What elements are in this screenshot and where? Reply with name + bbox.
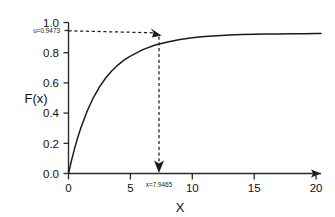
chart-screenshot: 1.0 0.8 0.6 0.4 0.2 0.0 0 5 10 15 20 F(x… <box>0 0 335 217</box>
y-tick-label-0-2: 0.2 <box>43 138 59 150</box>
x-axis-title: X <box>176 200 185 215</box>
y-tick-label-0-4: 0.4 <box>43 107 60 119</box>
x-tick-label-10: 10 <box>186 182 199 194</box>
y-axis-title: F(x) <box>24 91 47 106</box>
y-tick-label-0-0: 0.0 <box>43 168 59 180</box>
exponential-cdf-chart: 1.0 0.8 0.6 0.4 0.2 0.0 0 5 10 15 20 F(x… <box>0 0 335 217</box>
y-tick-label-0-6: 0.6 <box>43 77 59 89</box>
x-tick-label-0: 0 <box>65 182 71 194</box>
x-solution-annotation-label: x=7.9465 <box>146 181 173 188</box>
cdf-curve <box>69 34 322 174</box>
x-tick-labels: 0 5 10 15 20 <box>65 182 322 194</box>
x-solution-guide <box>154 37 164 174</box>
x-solution-arrow-icon <box>154 161 164 174</box>
y-tick-marks <box>64 23 69 174</box>
x-tick-label-5: 5 <box>127 182 133 194</box>
y-tick-label-0-8: 0.8 <box>43 47 59 59</box>
u-level-guide <box>69 28 162 37</box>
x-tick-label-20: 20 <box>310 182 323 194</box>
x-tick-label-15: 15 <box>248 182 261 194</box>
axes-group <box>69 23 322 178</box>
u-level-dashed-line <box>69 31 154 33</box>
u-level-annotation-label: u=0.9473 <box>33 27 60 34</box>
x-tick-marks <box>69 174 317 180</box>
